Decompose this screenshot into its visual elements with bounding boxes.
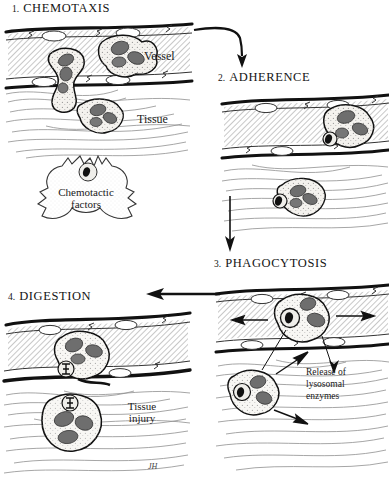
panel-number-2: 2.	[218, 73, 225, 83]
neutrophil-digesting	[55, 331, 110, 379]
release-enzymes-label: Release of lysosomal enzymes	[306, 367, 346, 403]
chemotactic-factors-line1: Chemotactic	[42, 186, 130, 198]
panel-title-1: CHEMOTAXIS	[23, 1, 110, 15]
panel-heading-chemotaxis: 1.CHEMOTAXIS	[12, 1, 110, 16]
macrophage-digestion	[42, 394, 101, 451]
arrow-adherence-to-phagocytosis	[222, 196, 244, 254]
panel-heading-phagocytosis: 3.PHAGOCYTOSIS	[214, 256, 327, 271]
tissue-label: Tissue	[137, 113, 168, 126]
neutrophil-in-tissue	[77, 99, 123, 133]
artist-signature: JH	[148, 462, 157, 471]
panel-number-1: 1.	[12, 4, 19, 14]
panel-title-4: DIGESTION	[19, 289, 91, 303]
chemotactic-factors-label: Chemotactic factors	[42, 186, 130, 211]
arrow-phagocytosis-to-digestion	[144, 284, 222, 308]
tissue-injury-line2: injury	[112, 412, 172, 424]
panel-adherence	[222, 87, 389, 237]
panel-number-3: 3.	[214, 259, 221, 269]
neutrophil-adhering	[323, 105, 374, 148]
vessel-label: Vessel	[144, 50, 175, 63]
panel-title-2: ADHERENCE	[229, 70, 310, 84]
tissue-injury-label: Tissue injury	[112, 400, 172, 425]
panel-heading-adherence: 2.ADHERENCE	[218, 70, 310, 85]
panel-phagocytosis	[216, 274, 389, 482]
neutrophil-tissue-adherence	[273, 178, 325, 216]
release-enzymes-line2: lysosomal	[306, 379, 346, 391]
panel-number-4: 4.	[8, 292, 15, 302]
release-enzymes-line3: enzymes	[306, 391, 346, 403]
release-enzymes-line1: Release of	[306, 367, 346, 379]
panel-title-3: PHAGOCYTOSIS	[225, 256, 327, 270]
arrow-chemotaxis-to-adherence	[192, 24, 262, 74]
chemotactic-factors-line2: factors	[42, 198, 130, 210]
panel-heading-digestion: 4.DIGESTION	[8, 289, 91, 304]
figure-canvas: 1.CHEMOTAXIS	[0, 0, 389, 482]
tissue-injury-line1: Tissue	[112, 400, 172, 412]
panel-digestion	[4, 307, 190, 479]
